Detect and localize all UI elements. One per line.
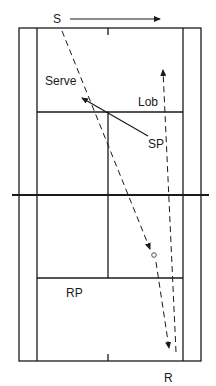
label-server-partner: SP bbox=[148, 137, 164, 151]
tennis-court-diagram: S Serve Lob SP RP R bbox=[0, 0, 216, 386]
label-server: S bbox=[53, 12, 61, 26]
serve-path bbox=[62, 31, 150, 249]
label-receiver: R bbox=[164, 371, 173, 385]
label-receiver-partner: RP bbox=[66, 286, 83, 300]
ball-icon bbox=[152, 253, 157, 258]
label-lob: Lob bbox=[138, 95, 158, 109]
label-serve: Serve bbox=[45, 74, 77, 88]
return-path bbox=[156, 262, 169, 348]
